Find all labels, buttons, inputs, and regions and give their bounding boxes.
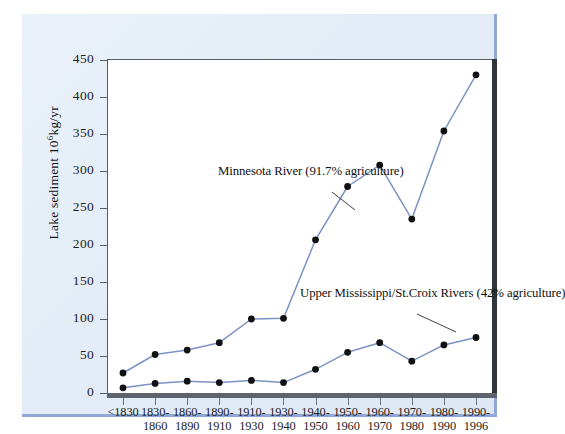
data-point [184,347,191,354]
data-point [152,380,159,387]
data-point [312,366,319,373]
data-point [216,339,223,346]
data-point [408,358,415,365]
annotation-upper-line1: Upper Mississippi/St.Croix Rivers [300,286,473,300]
data-point [441,128,448,135]
data-point [280,379,287,386]
series-line-0 [123,75,476,373]
data-series-layer [22,14,494,414]
data-point [184,378,191,385]
x-axis-label-line: 1996 [447,420,505,434]
series-line-1 [123,338,476,388]
annotation-minnesota-line1: Minnesota River [218,164,302,178]
data-point [473,334,480,341]
data-point [152,351,159,358]
data-point [408,216,415,223]
data-point [120,370,127,377]
data-point [473,71,480,78]
data-point [344,183,351,190]
data-point [312,236,319,243]
data-point [441,342,448,349]
figure-panel: Lake sediment 106kg/yr 05010015020025030… [22,14,497,417]
data-point [280,315,287,322]
annotation-upper-mississippi: Upper Mississippi/St.Croix Rivers (42% a… [300,286,565,301]
leader-line-upper-mississippi [417,314,456,332]
data-point [248,377,255,384]
data-point [216,379,223,386]
annotation-minnesota-line2: (91.7% agriculture) [305,164,403,178]
data-point [120,384,127,391]
data-point [376,339,383,346]
annotation-upper-line2: (42% agriculture) [477,286,565,300]
annotation-minnesota-river: Minnesota River (91.7% agriculture) [218,164,404,179]
data-point [344,349,351,356]
data-point [248,316,255,323]
